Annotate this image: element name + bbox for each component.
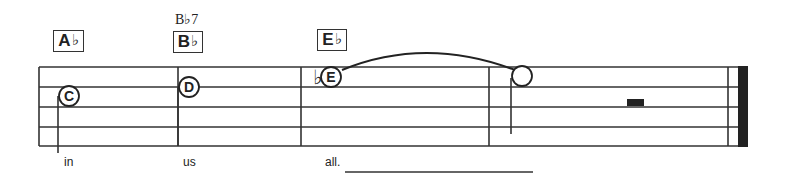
note-letter: C xyxy=(64,88,74,104)
music-score: CDE♭ xyxy=(0,0,786,187)
chord-symbol-bb[interactable]: B♭ xyxy=(173,31,203,53)
flat-icon: ♭ xyxy=(335,30,342,48)
staff xyxy=(39,67,748,146)
note-letter: E xyxy=(326,69,335,85)
chord-root: A xyxy=(58,31,70,51)
lyric-us: us xyxy=(183,155,196,169)
final-barline-thick xyxy=(738,66,748,147)
flat-icon: ♭ xyxy=(313,65,322,89)
notehead xyxy=(512,66,532,86)
chord-symbol-eb[interactable]: E♭ xyxy=(317,29,347,51)
note-e[interactable]: E♭ xyxy=(313,65,341,89)
lyric-all: all. xyxy=(325,155,340,169)
flat-icon: ♭ xyxy=(72,31,79,49)
chord-symbol-ab[interactable]: A♭ xyxy=(53,30,84,52)
note-d[interactable]: D xyxy=(179,77,199,97)
chord-root: E xyxy=(322,30,333,50)
chord-root: B xyxy=(178,32,190,52)
half-rest xyxy=(627,99,644,106)
flat-icon: ♭ xyxy=(191,32,198,50)
note-letter: D xyxy=(184,79,194,95)
tied-note[interactable] xyxy=(512,66,532,86)
alternate-chord-bb7: B♭7 xyxy=(175,11,198,28)
lyric-in: in xyxy=(64,155,73,169)
note-c[interactable]: C xyxy=(59,86,79,106)
notes: CDE♭ xyxy=(59,65,532,106)
stems xyxy=(58,78,511,153)
